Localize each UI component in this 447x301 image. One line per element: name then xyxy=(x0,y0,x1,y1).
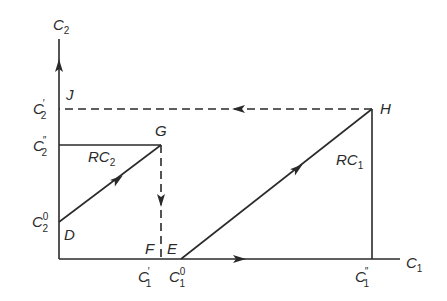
point-h-label: H xyxy=(380,100,391,117)
point-e-label: E xyxy=(167,240,178,257)
rc2-label: RC2 xyxy=(88,148,116,168)
point-f-label: F xyxy=(145,240,155,257)
point-g-label: G xyxy=(155,122,167,139)
y-tick-c2-prime: C′2 xyxy=(33,98,47,121)
point-j-label: J xyxy=(65,86,74,103)
x-tick-c1-double-prime: C″1 xyxy=(355,266,369,289)
y-tick-c2-double-prime: C″2 xyxy=(33,135,47,158)
rc1-label: RC1 xyxy=(336,151,364,171)
y-tick-c2-zero: C02 xyxy=(32,211,49,234)
concentration-path-diagram: C2 C1 C′2 C″2 C02 C′1 C01 C″1 J G H D F … xyxy=(0,0,447,301)
hj-arrow-icon xyxy=(232,105,245,113)
rc1-line xyxy=(181,109,372,259)
point-d-label: D xyxy=(64,226,75,243)
gf-arrow-icon xyxy=(157,194,165,207)
x-tick-c1-zero: C01 xyxy=(169,266,186,289)
x-axis-label: C1 xyxy=(406,254,423,274)
y-axis-label: C2 xyxy=(53,16,70,36)
x-tick-c1-prime: C′1 xyxy=(138,266,152,289)
